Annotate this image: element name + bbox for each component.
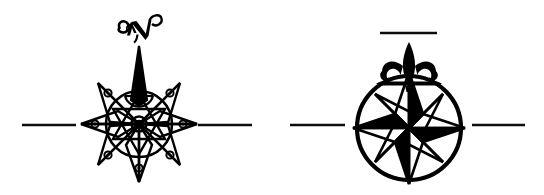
ornament-left [0, 0, 272, 195]
left-compass-rose [81, 15, 197, 182]
ornament-sheet: Compass Rose Ornaments Eight-point star … [0, 0, 544, 195]
rose-cardinal-points [353, 72, 465, 184]
ornament-right [272, 0, 544, 195]
script-n-letter [119, 15, 162, 42]
